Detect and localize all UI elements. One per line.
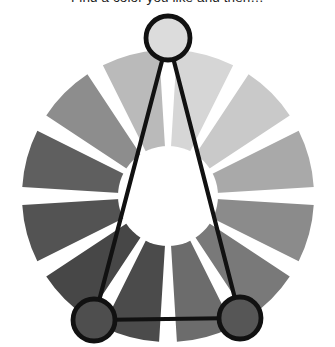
wheel-hub-circle [118,146,218,246]
marker-top[interactable] [146,16,190,60]
wheel-center-hub [118,146,218,246]
color-wheel-svg[interactable] [0,0,335,347]
marker-bottom-right[interactable] [219,297,261,339]
marker-bottom-left[interactable] [73,299,115,341]
color-wheel-widget[interactable] [0,0,335,347]
